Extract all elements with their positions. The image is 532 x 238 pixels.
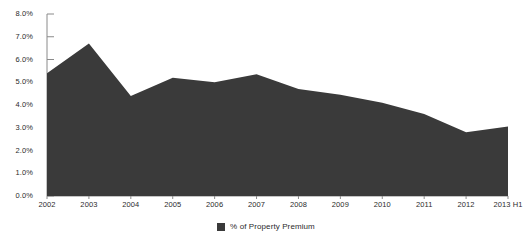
plot-svg xyxy=(0,0,532,200)
x-axis-tick-label: 2003 xyxy=(80,200,97,210)
x-axis-tick-label: 2012 xyxy=(458,200,475,210)
x-axis-tick-label: 2010 xyxy=(374,200,391,210)
chart-legend: % of Property Premium xyxy=(0,220,532,234)
x-axis-tick-label: 2009 xyxy=(332,200,349,210)
legend-label-percent-of-property-premium: % of Property Premium xyxy=(230,222,315,232)
x-axis-tick-label: 2004 xyxy=(122,200,139,210)
x-axis-tick-label: 2002 xyxy=(38,200,55,210)
x-axis: 2002200320042005200620072008200920102011… xyxy=(0,200,532,216)
x-axis-tick-label: 2007 xyxy=(248,200,265,210)
x-axis-tick-label: 2013 H1 xyxy=(493,200,522,210)
plot-area xyxy=(0,0,532,200)
x-axis-tick-label: 2008 xyxy=(290,200,307,210)
x-axis-tick-label: 2006 xyxy=(206,200,223,210)
x-axis-tick-label: 2011 xyxy=(416,200,433,210)
series-area-percent-of-property-premium xyxy=(47,44,508,196)
x-axis-tick-label: 2005 xyxy=(164,200,181,210)
legend-swatch-percent-of-property-premium xyxy=(217,223,225,231)
area-chart: 0.0%1.0%2.0%3.0%4.0%5.0%6.0%7.0%8.0% 200… xyxy=(0,0,532,238)
